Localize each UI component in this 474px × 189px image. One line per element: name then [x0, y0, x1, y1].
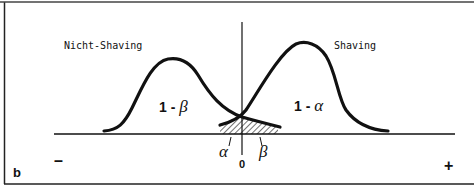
- beta-symbol: β: [179, 97, 187, 116]
- alpha-overlap-label: α: [219, 142, 228, 162]
- distribution-diagram: [0, 0, 474, 189]
- area-prefix: 1 -: [159, 99, 179, 115]
- origin-label: 0: [239, 158, 245, 170]
- shaving-label: Shaving: [334, 40, 376, 51]
- minus-sign-label: –: [54, 152, 63, 170]
- plus-sign-label: +: [444, 157, 453, 175]
- one-minus-beta-label: 1 - β: [159, 97, 188, 117]
- panel-label: b: [13, 165, 21, 180]
- alpha-leader-line: [229, 137, 231, 146]
- one-minus-alpha-label: 1 - α: [294, 96, 323, 116]
- alpha-symbol: α: [314, 96, 323, 115]
- area-prefix: 1 -: [294, 98, 314, 114]
- nicht-shaving-label: Nicht-Shaving: [64, 40, 142, 51]
- beta-overlap-label: β: [259, 142, 267, 162]
- diagram-frame: Nicht-Shaving Shaving 1 - β 1 - α α β 0 …: [0, 0, 474, 189]
- nicht-shaving-curve: [104, 59, 280, 131]
